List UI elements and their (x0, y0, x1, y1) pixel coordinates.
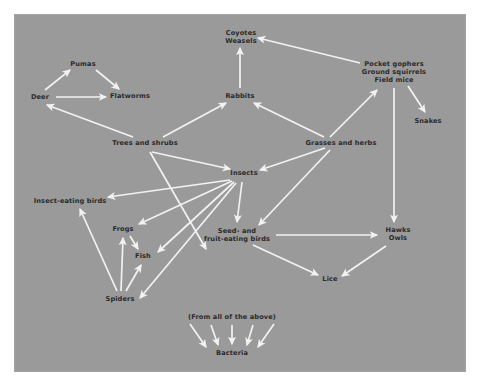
node-label-coyotes: CoyotesWeasels (225, 29, 256, 45)
node-label-flatworms: Flatworms (110, 92, 150, 100)
node-label-gophers: Pocket gophersGround squirrelsField mice (362, 60, 426, 85)
food-web-arrow (330, 90, 377, 137)
food-web-arrow (258, 38, 360, 63)
node-label-bacteria: Bacteria (216, 349, 248, 357)
food-web-arrow (80, 209, 117, 291)
node-label-snakes: Snakes (414, 117, 441, 125)
node-label-insectbirds: Insect-eating birds (34, 197, 107, 205)
food-web-arrow (247, 325, 253, 345)
node-label-fish: Fish (135, 252, 151, 260)
node-label-deer: Deer (31, 93, 49, 101)
food-web-arrow (163, 103, 226, 137)
food-web-arrow (237, 182, 242, 222)
food-web-arrow (258, 324, 274, 347)
food-web-arrow (139, 181, 232, 224)
node-label-spiders: Spiders (106, 295, 135, 303)
food-web-arrow (47, 105, 133, 137)
food-web-arrow (130, 236, 138, 249)
food-web-arrow (259, 150, 330, 225)
food-web-arrow (121, 238, 123, 291)
food-web-arrows (0, 0, 480, 387)
food-web-figure: PumasDeerFlatwormsCoyotesWeaselsRabbitsP… (0, 0, 480, 387)
node-label-hawks: HawksOwls (386, 226, 411, 242)
food-web-arrow (253, 245, 318, 275)
node-label-seedbirds: Seed- andfruit-eating birds (204, 227, 270, 243)
node-label-frogs: Frogs (112, 225, 133, 233)
arrow-layer (45, 38, 425, 347)
food-web-arrow (108, 180, 230, 197)
food-web-arrow (96, 70, 119, 89)
node-label-trees: Trees and shrubs (112, 139, 177, 147)
food-web-arrow (190, 324, 206, 347)
node-label-fromabove: (From all of the above) (188, 313, 276, 321)
node-label-lice: Lice (322, 275, 337, 283)
food-web-arrow (45, 70, 70, 90)
food-web-arrow (342, 246, 386, 276)
food-web-arrow (408, 86, 425, 112)
food-web-arrow (152, 152, 230, 169)
node-label-insects: Insects (230, 169, 257, 177)
food-web-arrow (126, 265, 141, 291)
food-web-arrow (254, 103, 324, 137)
node-label-pumas: Pumas (70, 60, 95, 68)
node-label-grasses: Grasses and herbs (306, 139, 377, 147)
node-label-rabbits: Rabbits (225, 92, 254, 100)
food-web-arrow (211, 325, 218, 345)
